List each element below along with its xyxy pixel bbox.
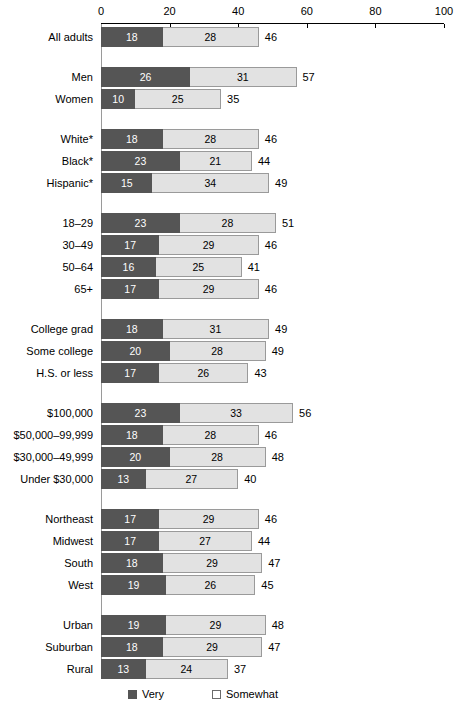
bar-segment-very: 19 xyxy=(101,615,166,635)
bar-total-label: 40 xyxy=(244,469,256,489)
bar-total-label: 46 xyxy=(265,129,277,149)
bar-row: Suburban182947 xyxy=(0,637,461,657)
bar-total-label: 37 xyxy=(234,659,246,679)
bar-segment-very: 18 xyxy=(101,27,163,47)
bar-segment-somewhat: 28 xyxy=(163,129,259,149)
bar-segment-somewhat: 27 xyxy=(159,531,252,551)
bar-total-label: 49 xyxy=(275,173,287,193)
bar-segment-very: 18 xyxy=(101,129,163,149)
bar-segment-somewhat: 29 xyxy=(159,235,258,255)
bar-segment-very: 20 xyxy=(101,447,170,467)
bar-segment-somewhat: 29 xyxy=(166,615,265,635)
axis-tick-label: 60 xyxy=(287,6,327,17)
bar-row: College grad183149 xyxy=(0,319,461,339)
bar-segment-somewhat: 24 xyxy=(146,659,228,679)
bar-segment-somewhat: 21 xyxy=(180,151,252,171)
bar-row-label: College grad xyxy=(0,319,93,339)
bar-row-label: Some college xyxy=(0,341,93,361)
bar-total-label: 43 xyxy=(254,363,266,383)
bar-row: Women102535 xyxy=(0,89,461,109)
bar-row: Under $30,000132740 xyxy=(0,469,461,489)
axis-tick-label: 100 xyxy=(424,6,461,17)
bar-total-label: 46 xyxy=(265,27,277,47)
bar-segment-very: 15 xyxy=(101,173,152,193)
bar-row: South182947 xyxy=(0,553,461,573)
bar-segment-very: 23 xyxy=(101,151,180,171)
bar-row-label: H.S. or less xyxy=(0,363,93,383)
bar-row: Urban192948 xyxy=(0,615,461,635)
bar-row: $50,000–99,999182846 xyxy=(0,425,461,445)
bar-total-label: 41 xyxy=(248,257,260,277)
bar-segment-somewhat: 28 xyxy=(170,341,266,361)
bar-row: 65+172946 xyxy=(0,279,461,299)
bar-row: Men263157 xyxy=(0,67,461,87)
bar-segment-very: 17 xyxy=(101,531,159,551)
bar-total-label: 46 xyxy=(265,509,277,529)
stacked-bar-chart: 020406080100 All adults182846Men263157Wo… xyxy=(0,0,461,718)
bar-segment-somewhat: 29 xyxy=(159,279,258,299)
axis-tick-label: 0 xyxy=(81,6,121,17)
legend-item-somewhat: Somewhat xyxy=(212,685,278,703)
bar-total-label: 44 xyxy=(258,531,270,551)
bar-total-label: 46 xyxy=(265,279,277,299)
bar-row: $100,000233356 xyxy=(0,403,461,423)
bar-segment-somewhat: 28 xyxy=(170,447,266,467)
axis-tick-label: 20 xyxy=(150,6,190,17)
bar-segment-very: 23 xyxy=(101,403,180,423)
bar-row-label: $50,000–99,999 xyxy=(0,425,93,445)
bar-row-label: Rural xyxy=(0,659,93,679)
bar-row-label: 30–49 xyxy=(0,235,93,255)
bar-row: Rural132437 xyxy=(0,659,461,679)
bar-row-label: White* xyxy=(0,129,93,149)
bar-segment-very: 18 xyxy=(101,319,163,339)
bar-segment-very: 16 xyxy=(101,257,156,277)
bar-row-label: Urban xyxy=(0,615,93,635)
legend-swatch-very-icon xyxy=(128,690,137,699)
bar-row-label: Suburban xyxy=(0,637,93,657)
bar-segment-very: 18 xyxy=(101,553,163,573)
bar-row-label: Northeast xyxy=(0,509,93,529)
bar-segment-very: 23 xyxy=(101,213,180,233)
bar-segment-somewhat: 29 xyxy=(159,509,258,529)
bar-segment-very: 26 xyxy=(101,67,190,87)
bar-row-label: Men xyxy=(0,67,93,87)
legend-label-very: Very xyxy=(142,688,164,700)
axis-tick-label: 80 xyxy=(355,6,395,17)
bar-row-label: Hispanic* xyxy=(0,173,93,193)
bar-row: Midwest172744 xyxy=(0,531,461,551)
bar-segment-somewhat: 28 xyxy=(163,425,259,445)
bar-segment-somewhat: 26 xyxy=(159,363,248,383)
bar-row: 18–29232851 xyxy=(0,213,461,233)
bar-row-label: 65+ xyxy=(0,279,93,299)
x-axis: 020406080100 xyxy=(0,0,461,30)
bar-row: 30–49172946 xyxy=(0,235,461,255)
bar-segment-somewhat: 29 xyxy=(163,637,262,657)
bar-segment-somewhat: 25 xyxy=(135,89,221,109)
bar-segment-very: 13 xyxy=(101,469,146,489)
bar-total-label: 57 xyxy=(303,67,315,87)
axis-tick-label: 40 xyxy=(218,6,258,17)
bar-segment-somewhat: 33 xyxy=(180,403,293,423)
bar-segment-somewhat: 31 xyxy=(190,67,296,87)
bar-segment-very: 17 xyxy=(101,363,159,383)
bar-total-label: 45 xyxy=(261,575,273,595)
bar-segment-very: 17 xyxy=(101,279,159,299)
bar-total-label: 46 xyxy=(265,235,277,255)
legend-swatch-somewhat-icon xyxy=(212,690,221,699)
bar-total-label: 48 xyxy=(272,447,284,467)
bar-segment-somewhat: 31 xyxy=(163,319,269,339)
bar-total-label: 49 xyxy=(272,341,284,361)
axis-line xyxy=(101,23,444,24)
bar-total-label: 35 xyxy=(227,89,239,109)
chart-legend: Very Somewhat xyxy=(0,685,461,705)
bar-segment-very: 17 xyxy=(101,509,159,529)
bar-row-label: Black* xyxy=(0,151,93,171)
bar-segment-somewhat: 28 xyxy=(180,213,276,233)
bar-row-label: All adults xyxy=(0,27,93,47)
bar-row: Northeast172946 xyxy=(0,509,461,529)
bar-row-label: South xyxy=(0,553,93,573)
bar-segment-somewhat: 34 xyxy=(152,173,269,193)
bar-total-label: 51 xyxy=(282,213,294,233)
bar-segment-somewhat: 28 xyxy=(163,27,259,47)
bar-total-label: 48 xyxy=(272,615,284,635)
